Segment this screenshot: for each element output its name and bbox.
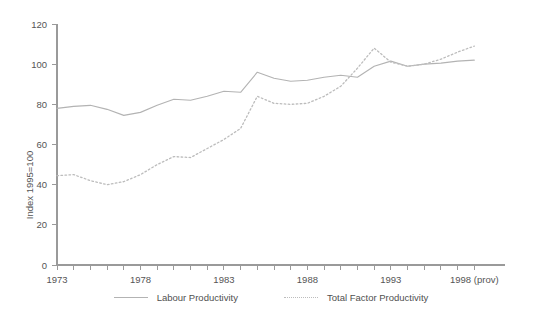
y-axis-tick-label: 20 xyxy=(36,219,47,230)
chart-legend: Labour Productivity Total Factor Product… xyxy=(0,292,542,303)
legend-swatch-dotted-line-icon xyxy=(284,297,318,298)
series-line-labour-productivity xyxy=(57,60,474,115)
x-axis-tick-label: 1988 xyxy=(297,274,318,285)
x-axis-tick-group: 197319781983198819931998 (prov) xyxy=(46,265,498,285)
y-axis-tick-group: 020406080100120 xyxy=(31,19,57,271)
legend-swatch-solid-line-icon xyxy=(114,297,148,298)
legend-item-labour-productivity[interactable]: Labour Productivity xyxy=(114,292,238,303)
x-axis-tick-label: 1973 xyxy=(46,274,67,285)
x-axis-tick-label: 1983 xyxy=(213,274,234,285)
x-axis-tick-label: 1993 xyxy=(380,274,401,285)
legend-item-total-factor-productivity[interactable]: Total Factor Productivity xyxy=(284,292,428,303)
chart-plot-area: 020406080100120 197319781983198819931998… xyxy=(0,0,542,321)
y-axis-tick-label: 100 xyxy=(31,59,47,70)
y-axis-tick-label: 80 xyxy=(36,99,47,110)
y-axis-tick-label: 40 xyxy=(36,179,47,190)
y-axis-tick-label: 0 xyxy=(42,260,47,271)
y-axis-tick-label: 120 xyxy=(31,19,47,30)
legend-label: Total Factor Productivity xyxy=(327,292,428,303)
x-axis-tick-label: 1998 (prov) xyxy=(450,274,499,285)
x-axis-tick-label: 1978 xyxy=(130,274,151,285)
productivity-line-chart: 020406080100120 197319781983198819931998… xyxy=(0,0,542,321)
y-axis-title: Index 1995=100 xyxy=(24,151,35,219)
legend-label: Labour Productivity xyxy=(157,292,238,303)
series-line-total-factor-productivity xyxy=(57,46,474,185)
y-axis-tick-label: 60 xyxy=(36,139,47,150)
